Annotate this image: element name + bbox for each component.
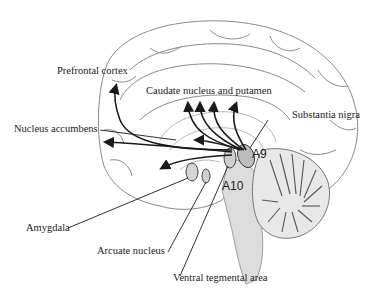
label-caudate-putamen: Caudate nucleus and putamen <box>146 86 272 97</box>
brain-diagram: Prefrontal cortex Caudate nucleus and pu… <box>0 0 390 297</box>
dopamine-pathways <box>106 86 246 168</box>
label-a9: A9 <box>252 148 267 160</box>
label-a10: A10 <box>222 180 243 192</box>
cerebellum <box>252 149 329 239</box>
label-substantia-nigra: Substantia nigra <box>292 110 360 121</box>
label-arcuate-nucleus: Arcuate nucleus <box>97 246 165 257</box>
label-ventral-tegmental-area: Ventral tegmental area <box>173 273 267 284</box>
arcuate-region <box>202 169 210 183</box>
brain-illustration <box>0 0 390 297</box>
label-amygdala: Amygdala <box>26 223 70 234</box>
label-nucleus-accumbens: Nucleus accumbens <box>14 124 98 135</box>
label-prefrontal-cortex: Prefrontal cortex <box>57 66 128 77</box>
